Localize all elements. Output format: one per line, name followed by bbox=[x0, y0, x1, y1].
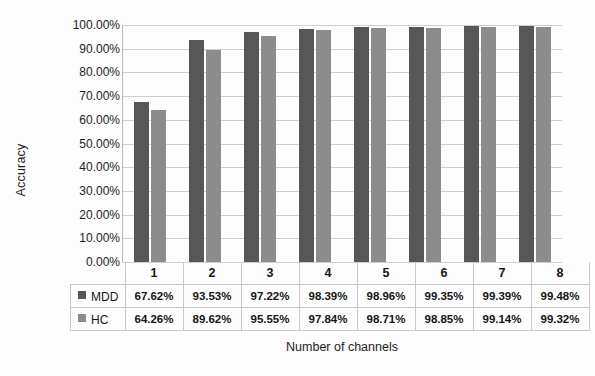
value-cell-mdd-8: 99.48% bbox=[531, 285, 589, 308]
category-cell-2: 2 bbox=[183, 262, 241, 285]
bar-mdd-3 bbox=[244, 32, 259, 262]
bar-mdd-1 bbox=[134, 102, 149, 262]
bar-hc-6 bbox=[426, 28, 441, 262]
bar-group-6 bbox=[397, 25, 452, 262]
y-axis-title-label: Accuracy bbox=[14, 110, 28, 230]
data-table: 12345678MDD67.62%93.53%97.22%98.39%98.96… bbox=[70, 262, 590, 331]
y-axis-tick-10: 10.00% bbox=[79, 232, 120, 244]
table-row-categories: 12345678 bbox=[71, 262, 590, 285]
bar-hc-1 bbox=[151, 110, 166, 262]
value-cell-hc-8: 99.32% bbox=[531, 308, 589, 331]
y-axis-tick-50: 50.00% bbox=[79, 138, 120, 150]
bar-group-4 bbox=[287, 25, 342, 262]
bar-mdd-5 bbox=[354, 27, 369, 262]
value-cell-hc-2: 89.62% bbox=[183, 308, 241, 331]
legend-label-mdd: MDD bbox=[91, 289, 118, 303]
category-cell-4: 4 bbox=[299, 262, 357, 285]
legend-swatch-mdd-icon bbox=[78, 291, 86, 299]
bar-mdd-2 bbox=[189, 40, 204, 262]
value-cell-hc-7: 99.14% bbox=[473, 308, 531, 331]
bar-hc-7 bbox=[481, 27, 496, 262]
legend-swatch-hc-icon bbox=[78, 314, 86, 322]
table-row-mdd: MDD67.62%93.53%97.22%98.39%98.96%99.35%9… bbox=[71, 285, 590, 308]
bar-group-2 bbox=[177, 25, 232, 262]
value-cell-hc-6: 98.85% bbox=[415, 308, 473, 331]
plot-area bbox=[122, 25, 562, 262]
bar-mdd-4 bbox=[299, 29, 314, 262]
y-axis-tick-60: 60.00% bbox=[79, 114, 120, 126]
bar-mdd-8 bbox=[519, 26, 534, 262]
y-axis-tick-100: 100.00% bbox=[73, 19, 120, 31]
bar-groups bbox=[122, 25, 562, 262]
chart-figure: Accuracy 100.00%90.00%80.00%70.00%60.00%… bbox=[0, 0, 595, 376]
value-cell-mdd-6: 99.35% bbox=[415, 285, 473, 308]
category-cell-1: 1 bbox=[125, 262, 183, 285]
x-axis-title: Number of channels bbox=[122, 340, 562, 354]
category-cell-3: 3 bbox=[241, 262, 299, 285]
legend-entry-mdd: MDD bbox=[71, 285, 126, 308]
value-cell-mdd-2: 93.53% bbox=[183, 285, 241, 308]
y-axis-tick-labels: 100.00%90.00%80.00%70.00%60.00%50.00%40.… bbox=[40, 0, 120, 270]
bar-hc-2 bbox=[206, 50, 221, 262]
bar-hc-4 bbox=[316, 30, 331, 262]
category-cell-8: 8 bbox=[531, 262, 589, 285]
category-cell-7: 7 bbox=[473, 262, 531, 285]
value-cell-mdd-3: 97.22% bbox=[241, 285, 299, 308]
legend-label-hc: HC bbox=[91, 312, 108, 326]
value-cell-hc-1: 64.26% bbox=[125, 308, 183, 331]
bar-group-1 bbox=[122, 25, 177, 262]
table-row-hc: HC64.26%89.62%95.55%97.84%98.71%98.85%99… bbox=[71, 308, 590, 331]
value-cell-mdd-1: 67.62% bbox=[125, 285, 183, 308]
category-cell-5: 5 bbox=[357, 262, 415, 285]
bar-mdd-7 bbox=[464, 26, 479, 262]
value-cell-mdd-5: 98.96% bbox=[357, 285, 415, 308]
y-axis-tick-20: 20.00% bbox=[79, 209, 120, 221]
bar-mdd-6 bbox=[409, 27, 424, 262]
bar-hc-3 bbox=[261, 36, 276, 262]
category-cell-6: 6 bbox=[415, 262, 473, 285]
value-cell-hc-3: 95.55% bbox=[241, 308, 299, 331]
y-axis-tick-30: 30.00% bbox=[79, 185, 120, 197]
y-axis-tick-70: 70.00% bbox=[79, 90, 120, 102]
bar-group-5 bbox=[342, 25, 397, 262]
bar-group-3 bbox=[232, 25, 287, 262]
bar-group-8 bbox=[507, 25, 562, 262]
value-cell-mdd-4: 98.39% bbox=[299, 285, 357, 308]
legend-entry-hc: HC bbox=[71, 308, 126, 331]
bar-group-7 bbox=[452, 25, 507, 262]
table-corner-cell bbox=[71, 262, 126, 285]
value-cell-mdd-7: 99.39% bbox=[473, 285, 531, 308]
y-axis-tick-40: 40.00% bbox=[79, 161, 120, 173]
y-axis-tick-80: 80.00% bbox=[79, 66, 120, 78]
value-cell-hc-4: 97.84% bbox=[299, 308, 357, 331]
y-axis-tick-90: 90.00% bbox=[79, 43, 120, 55]
bar-hc-8 bbox=[536, 27, 551, 262]
value-cell-hc-5: 98.71% bbox=[357, 308, 415, 331]
bar-hc-5 bbox=[371, 28, 386, 262]
y-axis-title: Accuracy bbox=[14, 0, 28, 110]
